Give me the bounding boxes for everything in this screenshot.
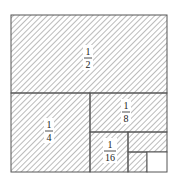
region-sixty-fourth xyxy=(128,152,147,172)
denominator: 4 xyxy=(47,132,52,143)
region-thirty-second xyxy=(128,132,167,152)
numerator: 1 xyxy=(47,119,52,130)
denominator: 8 xyxy=(124,113,129,124)
region-remainder xyxy=(147,152,167,172)
denominator: 16 xyxy=(105,152,115,163)
denominator: 2 xyxy=(86,59,91,70)
geometric-series-diagram: 1 2 1 4 1 8 1 16 xyxy=(0,0,179,188)
numerator: 1 xyxy=(108,139,113,150)
numerator: 1 xyxy=(124,100,129,111)
numerator: 1 xyxy=(86,46,91,57)
